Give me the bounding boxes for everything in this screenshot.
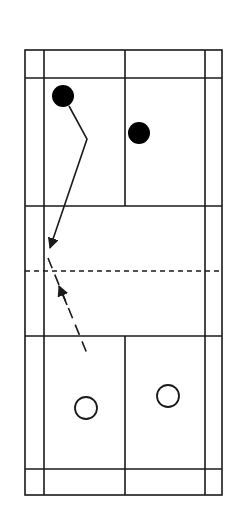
open-player-2	[157, 385, 179, 407]
filled-player-1	[52, 85, 74, 107]
solid-movement-arrow	[50, 106, 87, 248]
players-team-b	[75, 385, 179, 419]
court-lines	[25, 50, 222, 495]
dashed-shuttle-path	[48, 258, 88, 356]
filled-player-2	[128, 122, 150, 144]
open-player-1	[75, 397, 97, 419]
players-team-a	[52, 85, 150, 144]
dashed-arrowhead-icon	[59, 286, 67, 305]
court-boundary	[25, 50, 222, 495]
badminton-court-diagram	[0, 0, 234, 518]
